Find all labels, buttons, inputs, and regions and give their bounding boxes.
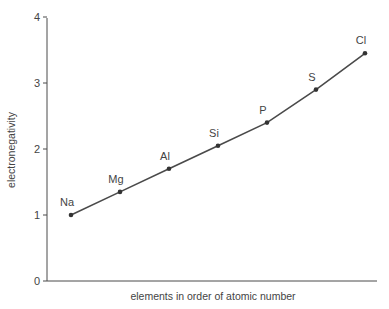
y-tick-label: 3 [34,77,40,89]
y-tick-label: 1 [34,209,40,221]
data-point-marker [69,213,74,218]
x-axis-title: elements in order of atomic number [130,290,296,302]
electronegativity-chart: 01234 electronegativity elements in orde… [0,0,389,309]
data-point-marker [363,51,368,56]
data-point-marker [167,167,172,172]
y-tick-label: 4 [34,11,40,23]
data-point-label: P [259,104,266,116]
y-tick-label: 0 [34,275,40,287]
data-point-label: Al [160,150,170,162]
data-point-marker [265,120,270,125]
data-point-label: Si [209,127,219,139]
data-point-label: Mg [108,173,123,185]
data-point-label: Na [60,196,75,208]
y-axis-title: electronegativity [5,111,17,188]
data-point-marker [118,190,123,195]
data-point-label: S [308,71,315,83]
y-ticks: 01234 [34,11,47,287]
data-point-marker [216,143,221,148]
data-points: NaMgAlSiPSCl [60,34,367,217]
data-point-marker [314,87,319,92]
y-tick-label: 2 [34,143,40,155]
data-point-label: Cl [356,34,366,46]
